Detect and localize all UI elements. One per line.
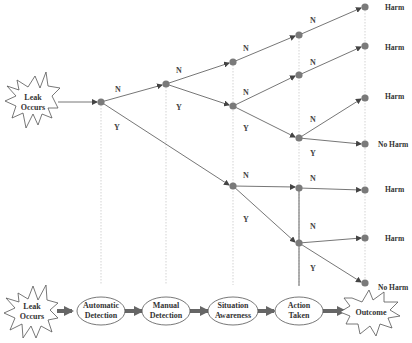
svg-text:Y: Y [243,215,249,224]
svg-text:Occurs: Occurs [21,103,45,112]
initiating-event-burst: Leak Occurs [5,72,60,128]
sequence-action-taken: Action Taken [275,297,323,325]
svg-text:Occurs: Occurs [20,312,44,321]
svg-text:N: N [310,115,316,124]
nodes [97,3,368,286]
svg-text:Y: Y [310,264,316,273]
outcome-5: Harm [385,185,405,194]
outcome-3: Harm [385,92,405,101]
svg-text:N: N [243,88,249,97]
svg-text:Outcome: Outcome [355,308,387,317]
svg-text:Detection: Detection [150,311,183,320]
svg-text:N: N [243,44,249,53]
branches [58,8,361,282]
outcome-7: No Harm [378,283,409,292]
event-tree-diagram: N Y N Y N N Y N Y N N N Y N N Y Harm Har… [0,0,412,343]
svg-text:Taken: Taken [288,311,310,320]
svg-text:Detection: Detection [85,311,118,320]
svg-text:N: N [115,85,121,94]
svg-text:Y: Y [243,124,249,133]
svg-text:Automatic: Automatic [83,301,119,310]
svg-text:N: N [310,222,316,231]
svg-text:N: N [243,171,249,180]
svg-text:N: N [310,16,316,25]
outcome-6: Harm [385,234,405,243]
outcome-4: No Harm [378,140,409,149]
sequence-outcome-burst: Outcome [340,290,400,336]
outcome-2: Harm [385,43,405,52]
svg-text:Leak: Leak [24,93,42,102]
sequence-leak-occurs: Leak Occurs [4,285,58,338]
svg-text:Y: Y [176,103,182,112]
svg-text:N: N [310,174,316,183]
svg-text:Y: Y [310,149,316,158]
outcome-labels: Harm Harm Harm No Harm Harm Harm No Harm [378,3,409,292]
sequence-automatic-detection: Automatic Detection [77,297,125,325]
svg-text:Manual: Manual [153,301,180,310]
svg-text:Leak: Leak [23,302,41,311]
column-guides [101,7,365,285]
sequence-manual-detection: Manual Detection [142,297,190,325]
sequence-situation-awareness: Situation Awareness [208,297,258,325]
svg-text:N: N [176,66,182,75]
svg-text:Situation: Situation [217,301,249,310]
branch-labels: N Y N Y N N Y N Y N N N Y N N Y [114,16,316,273]
outcome-1: Harm [385,3,405,12]
svg-text:Y: Y [114,123,120,132]
svg-text:N: N [310,58,316,67]
svg-text:Awareness: Awareness [215,311,251,320]
svg-text:Action: Action [288,301,311,310]
